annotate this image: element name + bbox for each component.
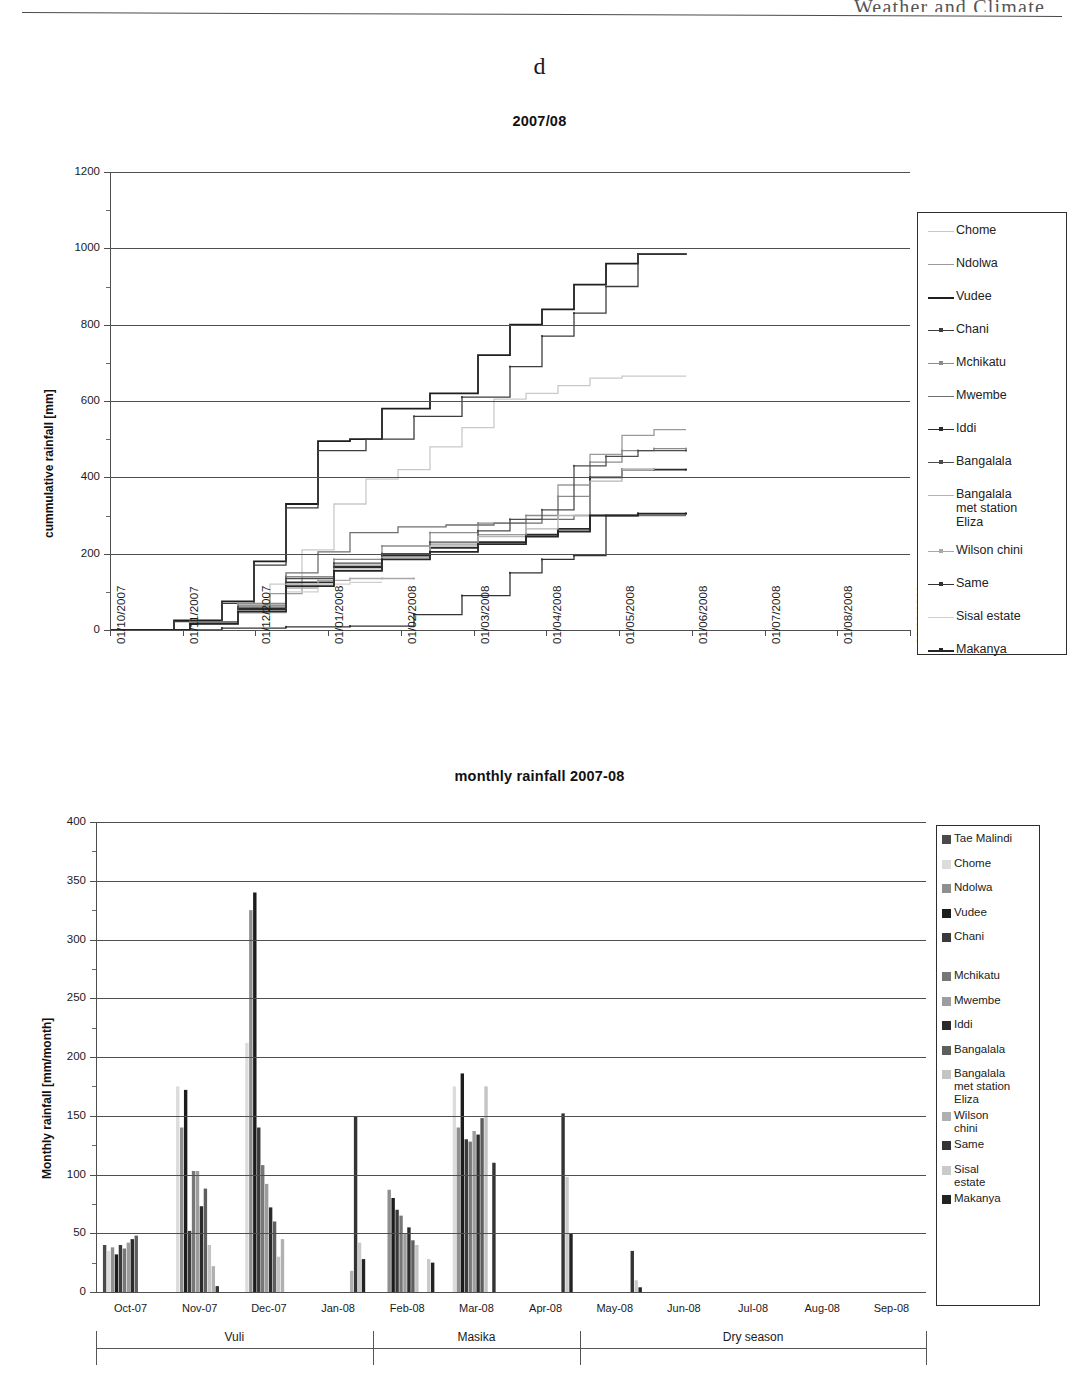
- chart1-x-tick-label: 01/08/2008: [842, 585, 854, 644]
- chart2-legend-item[interactable]: Same: [942, 1138, 1037, 1151]
- chart2-legend-item[interactable]: Makanya: [942, 1192, 1037, 1205]
- chart2-gridline: [96, 940, 926, 941]
- chart1-legend-item[interactable]: Sisal estate: [926, 609, 1060, 642]
- chart1-legend-item[interactable]: Bangalala met station Eliza: [926, 487, 1060, 543]
- chart2-bar: [135, 1236, 138, 1292]
- chart2-bar: [119, 1245, 122, 1292]
- chart2-legend-item[interactable]: Chani: [942, 930, 1037, 943]
- chart2-bar: [407, 1227, 410, 1292]
- chart2-x-tick-label: Feb-08: [373, 1302, 442, 1314]
- chart2-bar: [281, 1239, 284, 1292]
- chart2-x-axis: [96, 1292, 926, 1293]
- chart1-x-tick-label: 01/05/2008: [624, 585, 636, 644]
- chart2-bar: [469, 1142, 472, 1292]
- chart1-series-marker: [685, 469, 687, 471]
- chart2-legend-label: Makanya: [954, 1192, 1001, 1205]
- chart2-legend-item[interactable]: Sisal estate: [942, 1163, 1037, 1188]
- legend-marker-icon: [939, 582, 943, 586]
- chart2-x-tick-label: Dec-07: [234, 1302, 303, 1314]
- legend-color-swatch-icon: [942, 1112, 951, 1121]
- chart2-legend-item[interactable]: Tae Malindi: [942, 832, 1037, 845]
- chart2-y-tick-label: 300: [44, 933, 86, 945]
- chart1-legend-label: Sisal estate: [956, 609, 1021, 623]
- legend-color-swatch-icon: [942, 1166, 951, 1175]
- chart2-legend-label: Bangalala met station Eliza: [954, 1067, 1010, 1105]
- chart1-legend-item[interactable]: Same: [926, 576, 1060, 609]
- chart1-series-marker: [461, 396, 463, 398]
- chart1-legend-item[interactable]: Ndolwa: [926, 256, 1060, 289]
- chart1-series-marker: [509, 366, 511, 368]
- chart2-bar: [484, 1086, 487, 1292]
- chart2-legend-item[interactable]: Mchikatu: [942, 969, 1037, 982]
- legend-line-swatch-icon: [926, 357, 956, 371]
- chart1-series-marker: [237, 611, 239, 613]
- chart1-legend-label: Vudee: [956, 289, 992, 303]
- chart2-legend-label: Wilson chini: [954, 1109, 989, 1134]
- chart2-y-tick-label: 400: [44, 815, 86, 827]
- chart1-series-marker: [333, 570, 335, 572]
- chart1-x-tick: [474, 630, 475, 636]
- chart2-legend-item[interactable]: Bangalala met station Eliza: [942, 1067, 1037, 1105]
- chart2-x-tick-label: Mar-08: [442, 1302, 511, 1314]
- chart1-series-marker: [637, 513, 639, 515]
- chart2-bar: [208, 1245, 211, 1292]
- chart1-x-tick: [328, 630, 329, 636]
- chart1-y-tick-label: 0: [54, 623, 100, 635]
- chart1-series-marker: [605, 455, 607, 457]
- legend-color-swatch-icon: [942, 933, 951, 942]
- chart2-bar: [358, 1243, 361, 1292]
- chart1-legend-item[interactable]: Vudee: [926, 289, 1060, 322]
- chart1-gridline: [110, 554, 910, 555]
- chart1-legend-label: Chome: [956, 223, 996, 237]
- legend-line-swatch-icon: [926, 225, 956, 239]
- chart2-legend-item[interactable]: Vudee: [942, 906, 1037, 919]
- chart2-legend-item[interactable]: Chome: [942, 857, 1037, 870]
- chart2-legend-item[interactable]: Ndolwa: [942, 881, 1037, 894]
- chart1-series-marker: [253, 564, 255, 566]
- legend-line-swatch-icon: [926, 644, 956, 658]
- chart1-x-tick: [401, 630, 402, 636]
- chart2-bar: [631, 1251, 634, 1292]
- header-rule: [22, 12, 1062, 17]
- chart1-legend-item[interactable]: Iddi: [926, 421, 1060, 454]
- chart1-x-tick-label: 01/01/2008: [333, 585, 345, 644]
- chart2-bar: [399, 1216, 402, 1292]
- chart1-series-marker: [429, 541, 431, 543]
- chart1-legend-item[interactable]: Chome: [926, 223, 1060, 256]
- chart2-bar: [453, 1086, 456, 1292]
- chart1-legend-label: Mchikatu: [956, 355, 1006, 369]
- chart2-legend-item[interactable]: Wilson chini: [942, 1109, 1037, 1134]
- chart1-legend-item[interactable]: Mwembe: [926, 388, 1060, 421]
- chart1-legend-item[interactable]: Mchikatu: [926, 355, 1060, 388]
- chart2-y-tick-label: 250: [44, 991, 86, 1003]
- chart2-legend-item[interactable]: Iddi: [942, 1018, 1037, 1031]
- chart1-legend-item[interactable]: Makanya: [926, 642, 1060, 675]
- chart1-x-tick: [110, 630, 111, 636]
- chart2-bar: [200, 1206, 203, 1292]
- chart1-x-tick-label: 01/02/2008: [406, 585, 418, 644]
- season-band-label: Vuli: [96, 1330, 373, 1344]
- chart1-series-marker: [637, 450, 639, 452]
- chart1-y-tick-label: 1000: [54, 241, 100, 253]
- legend-line-swatch-icon: [926, 456, 956, 470]
- chart1-gridline: [110, 248, 910, 249]
- chart2-x-tick-label: May-08: [580, 1302, 649, 1314]
- chart1-series-marker: [509, 518, 511, 520]
- chart1-series-marker: [333, 562, 335, 564]
- chart2-bar: [103, 1245, 106, 1292]
- chart2-bar: [431, 1263, 434, 1292]
- chart1-legend-item[interactable]: Chani: [926, 322, 1060, 355]
- chart2-x-tick-label: Sep-08: [857, 1302, 926, 1314]
- chart1-legend-item[interactable]: Wilson chini: [926, 543, 1060, 576]
- chart1-legend-item[interactable]: Bangalala: [926, 454, 1060, 487]
- chart2-bar: [461, 1073, 464, 1292]
- chart2-legend-item[interactable]: Mwembe: [942, 994, 1037, 1007]
- chart2-y-tick-label: 200: [44, 1050, 86, 1062]
- chart2-bar: [192, 1171, 195, 1292]
- chart2-legend-item[interactable]: Bangalala: [942, 1043, 1037, 1056]
- legend-color-swatch-icon: [942, 835, 951, 844]
- chart1-series-marker: [685, 253, 687, 255]
- chart1-series-marker: [413, 415, 415, 417]
- legend-line-swatch-icon: [926, 611, 956, 625]
- chart1-series-marker: [221, 602, 223, 604]
